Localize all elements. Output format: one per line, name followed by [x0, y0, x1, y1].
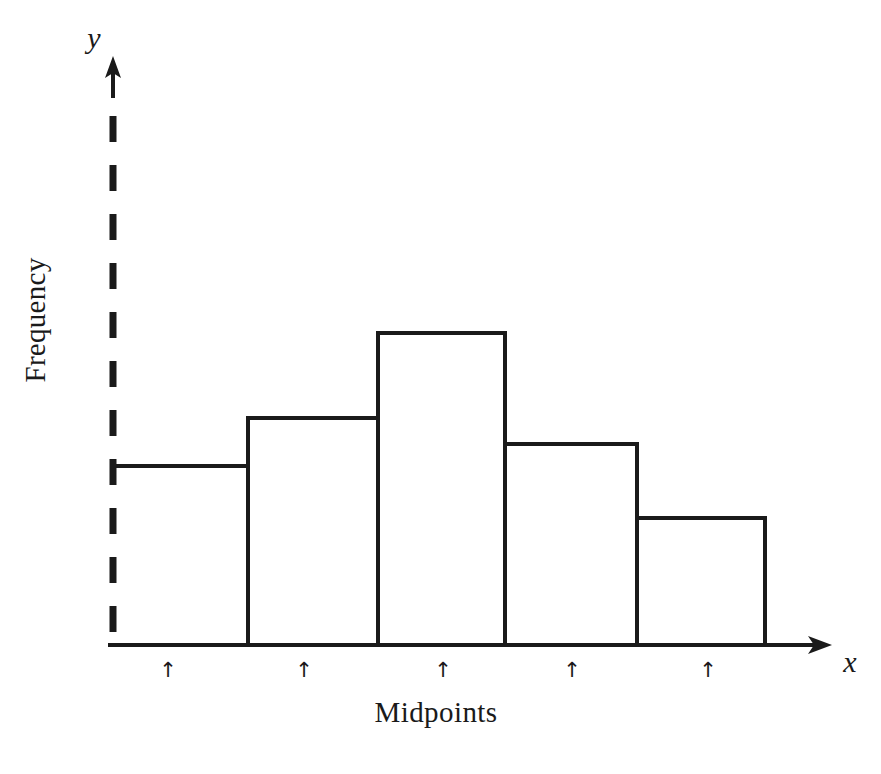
histogram-figure: ↑↑↑↑↑ y x Frequency Midpoints	[0, 0, 881, 774]
midpoint-tick-arrow-icon: ↑	[295, 658, 313, 682]
y-axis-arrow-icon	[105, 56, 121, 98]
midpoint-tick-arrow-icon: ↑	[699, 658, 717, 682]
x-axis-caption: Midpoints	[375, 696, 498, 728]
histogram-bar	[378, 333, 505, 645]
y-axis-title: Frequency	[19, 257, 51, 382]
x-axis-symbol-label: x	[842, 645, 857, 678]
midpoint-tick-arrow-icon: ↑	[563, 658, 581, 682]
histogram-bar	[637, 518, 765, 645]
midpoint-tick-arrow-icon: ↑	[159, 658, 177, 682]
y-axis-symbol-label: y	[84, 21, 101, 54]
histogram-bar	[113, 466, 248, 645]
midpoint-tick-markers: ↑↑↑↑↑	[159, 658, 717, 682]
midpoint-tick-arrow-icon: ↑	[434, 658, 452, 682]
histogram-bars	[113, 333, 765, 645]
histogram-canvas: ↑↑↑↑↑ y x Frequency Midpoints	[0, 0, 881, 774]
histogram-bar	[505, 444, 637, 645]
histogram-bar	[248, 418, 378, 645]
